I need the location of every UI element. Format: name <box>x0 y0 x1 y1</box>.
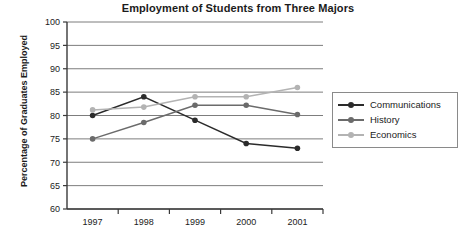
x-tick-label: 1997 <box>83 217 103 227</box>
x-tick-label: 1999 <box>185 217 205 227</box>
data-point <box>90 136 96 142</box>
y-tick-label: 75 <box>50 134 60 144</box>
gridlines <box>67 22 323 209</box>
data-point <box>90 113 96 119</box>
y-tick-label: 60 <box>50 204 60 214</box>
data-series-group <box>90 85 300 151</box>
y-tick-label: 100 <box>45 17 60 27</box>
legend-item: Communications <box>333 97 457 112</box>
x-tick-label: 1998 <box>134 217 154 227</box>
legend-label: History <box>370 115 400 125</box>
y-tick-label: 90 <box>50 64 60 74</box>
data-point <box>295 145 301 151</box>
legend-label: Communications <box>370 100 441 110</box>
legend-item: Economics <box>333 127 457 142</box>
y-tick-label: 80 <box>50 111 60 121</box>
y-tick-labels: 6065707580859095100 <box>45 17 60 214</box>
x-tick-label: 2001 <box>287 217 307 227</box>
x-tick-labels: 19971998199920002001 <box>83 217 308 227</box>
y-tick-label: 65 <box>50 181 60 191</box>
data-point <box>192 102 198 108</box>
data-point <box>295 85 301 91</box>
x-tick-label: 2000 <box>236 217 256 227</box>
legend-swatch-icon <box>338 114 364 125</box>
data-point <box>243 94 249 100</box>
legend-label: Economics <box>370 130 416 140</box>
legend-swatch-icon <box>338 99 364 110</box>
data-point <box>243 141 249 147</box>
x-axis-ticks <box>118 209 323 214</box>
data-point <box>141 94 147 100</box>
chart-container: Employment of Students from Three Majors… <box>0 0 476 243</box>
data-point <box>295 112 301 118</box>
legend-swatch-icon <box>338 129 364 140</box>
y-tick-label: 70 <box>50 158 60 168</box>
chart-legend: CommunicationsHistoryEconomics <box>332 92 458 148</box>
data-point <box>141 120 147 126</box>
data-point <box>243 102 249 108</box>
data-point <box>90 107 96 113</box>
y-tick-label: 85 <box>50 87 60 97</box>
data-point <box>141 104 147 110</box>
legend-item: History <box>333 112 457 127</box>
data-point <box>192 94 198 100</box>
data-point <box>192 117 198 123</box>
y-tick-label: 95 <box>50 41 60 51</box>
